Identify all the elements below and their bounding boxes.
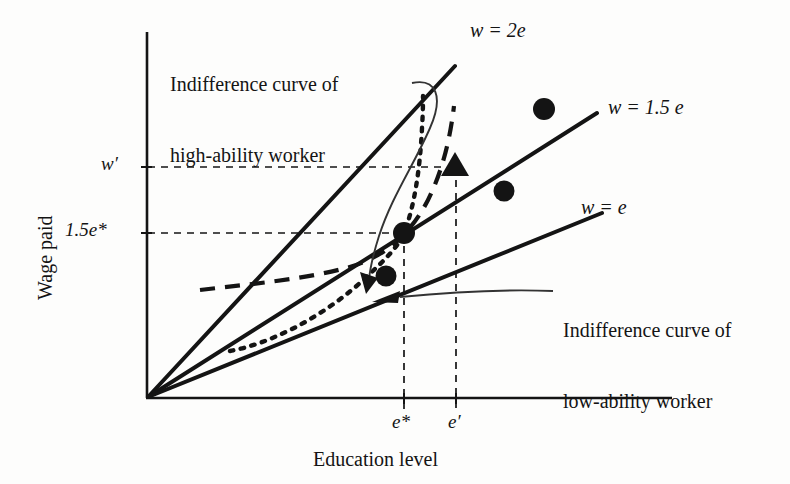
annotation-high-ability-line1: Indifference curve of [170, 73, 338, 97]
x-tick-label-e-prime: e′ [448, 411, 461, 433]
high-ability-lower-point [494, 181, 515, 202]
high-ability-upper-point [533, 98, 555, 120]
high-ability-leader-arrowhead [360, 272, 378, 294]
line-label-w-equals-e: w = e [581, 196, 627, 220]
low-ability-leader-arrowhead [372, 291, 400, 303]
y-tick-label-1.5e-star: 1.5e* [65, 219, 107, 241]
low-ability-outcome-point [376, 266, 397, 287]
y-axis-title: Wage paid [34, 216, 58, 300]
line-label-w-equals-1.5e: w = 1.5 e [608, 96, 684, 120]
y-tick-label-w-prime: w′ [101, 153, 118, 175]
annotation-high-ability-line2: high-ability worker [170, 144, 338, 168]
x-axis-title: Education level [313, 448, 438, 472]
annotation-high-ability-indifference-curve: Indifference curve of high-ability worke… [170, 26, 338, 215]
low-ability-leader-line [400, 290, 553, 297]
signaling-model-figure: Wage paid Education level w′ 1.5e* e* e′… [0, 0, 790, 484]
annotation-low-ability-indifference-curve: Indifference curve of low-ability worker [563, 272, 731, 461]
x-tick-label-e-star: e* [392, 411, 410, 433]
separating-equilibrium-point [393, 222, 415, 244]
line-w-equals-e [148, 213, 602, 397]
data-markers-group [376, 98, 556, 287]
annotation-low-ability-line2: low-ability worker [563, 390, 731, 414]
annotation-low-ability-line1: Indifference curve of [563, 319, 731, 343]
line-label-w-equals-2e: w = 2e [470, 19, 526, 43]
